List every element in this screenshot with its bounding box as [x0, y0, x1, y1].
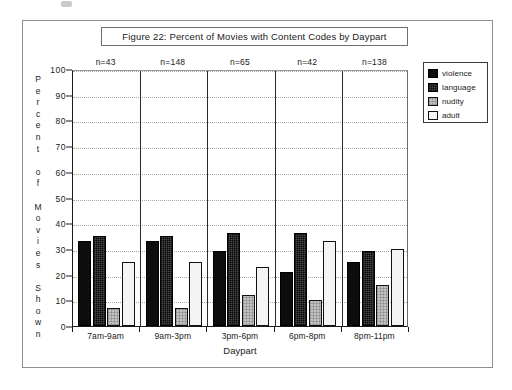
y-axis-tick-label: 20	[56, 271, 66, 281]
legend-label-nudity: nudity	[442, 97, 464, 106]
bar-adult	[189, 262, 202, 326]
y-axis: 0102030405060708090100	[0, 70, 72, 327]
bars-layer	[73, 71, 407, 326]
y-axis-tick-label: 30	[56, 245, 66, 255]
legend-label-language: language	[442, 83, 476, 92]
sample-size-label: n=65	[206, 57, 273, 69]
bar-language	[362, 251, 375, 326]
x-axis-tick-label: 6pm-8pm	[274, 331, 341, 345]
x-axis-tick-mark	[139, 327, 140, 332]
bar-group	[213, 69, 270, 326]
sample-size-label: n=42	[274, 57, 341, 69]
bar-adult	[122, 262, 135, 326]
bar-nudity	[309, 300, 322, 326]
bar-language	[227, 233, 240, 326]
chart-title-box: Figure 22: Percent of Movies with Conten…	[101, 27, 408, 46]
legend-item-adult[interactable]: adult	[428, 109, 483, 122]
bar-adult	[256, 267, 269, 326]
legend: violencelanguagenudityadult	[423, 62, 488, 123]
y-axis-tick-label: 90	[56, 91, 66, 101]
group-sample-size-labels: n=43n=148n=65n=42n=138	[72, 57, 408, 69]
x-axis-tick-label: 9am-3pm	[139, 331, 206, 345]
x-axis-tick-labels: 7am-9am9am-3pm3pm-6pm6pm-8pm8pm-11pm	[72, 331, 408, 345]
x-axis-tick-mark	[341, 327, 342, 332]
sample-size-label: n=148	[139, 57, 206, 69]
bar-adult	[391, 249, 404, 326]
bar-nudity	[376, 285, 389, 326]
bar-violence	[213, 251, 226, 326]
legend-swatch-language	[428, 83, 438, 92]
legend-item-violence[interactable]: violence	[428, 67, 483, 80]
legend-label-adult: adult	[442, 111, 460, 120]
y-axis-tick-label: 40	[56, 219, 66, 229]
bar-language	[93, 236, 106, 326]
sample-size-label: n=43	[72, 57, 139, 69]
y-axis-tick-label: 50	[56, 194, 66, 204]
legend-swatch-nudity	[428, 97, 438, 106]
x-axis-tick-label: 8pm-11pm	[341, 331, 408, 345]
y-axis-tick-label: 100	[50, 65, 66, 75]
bar-language	[160, 236, 173, 326]
x-axis-title: Daypart	[72, 345, 408, 356]
legend-item-language[interactable]: language	[428, 81, 483, 94]
scan-artifact	[61, 1, 72, 7]
bar-violence	[347, 262, 360, 326]
y-axis-tick-label: 80	[56, 116, 66, 126]
x-axis-tick-mark	[408, 327, 409, 332]
bar-nudity	[175, 308, 188, 326]
bar-violence	[146, 241, 159, 326]
x-axis-tick-mark	[72, 327, 73, 332]
bar-group	[347, 69, 404, 326]
bar-nudity	[242, 295, 255, 326]
x-axis-tick-label: 7am-9am	[72, 331, 139, 345]
y-axis-tick-label: 10	[56, 296, 66, 306]
plot-area	[72, 70, 408, 327]
x-axis-tick-mark	[206, 327, 207, 332]
page-title: Figure 22: Percent of Movies with Conten…	[122, 31, 386, 42]
y-axis-tick-label: 60	[56, 168, 66, 178]
bar-group	[280, 69, 337, 326]
bar-group	[78, 69, 135, 326]
legend-swatch-adult	[428, 111, 438, 120]
legend-label-violence: violence	[442, 69, 472, 78]
legend-swatch-violence	[428, 69, 438, 78]
bar-language	[294, 233, 307, 326]
y-axis-tick-label: 70	[56, 142, 66, 152]
bar-nudity	[107, 308, 120, 326]
x-axis-tick-label: 3pm-6pm	[206, 331, 273, 345]
bar-violence	[78, 241, 91, 326]
y-axis-title-char: n	[36, 329, 41, 341]
x-axis-tick-mark	[274, 327, 275, 332]
sample-size-label: n=138	[341, 57, 408, 69]
legend-item-nudity[interactable]: nudity	[428, 95, 483, 108]
bar-group	[146, 69, 203, 326]
bar-adult	[323, 241, 336, 326]
bar-violence	[280, 272, 293, 326]
